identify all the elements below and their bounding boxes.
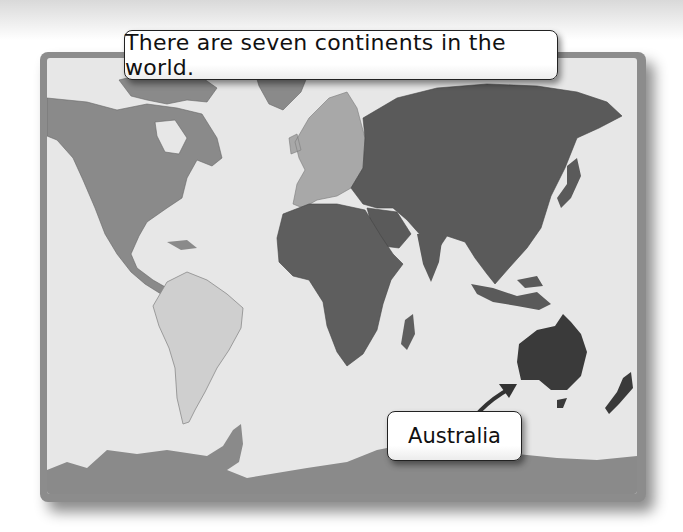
india xyxy=(417,234,443,282)
madagascar xyxy=(401,314,415,350)
caption-text: There are seven continents in the world. xyxy=(125,30,557,80)
australia-label-callout: Australia xyxy=(387,411,522,461)
indonesia xyxy=(471,276,551,310)
world-map-svg xyxy=(47,58,637,494)
south-america xyxy=(153,272,243,424)
new-zealand xyxy=(605,372,633,414)
world-map xyxy=(47,58,637,494)
caribbean xyxy=(167,240,197,250)
australia xyxy=(517,314,587,390)
arrow-head-icon xyxy=(499,384,517,398)
antarctica xyxy=(47,424,637,494)
tasmania xyxy=(557,398,567,408)
australia-label-text: Australia xyxy=(408,424,501,448)
map-frame xyxy=(40,52,646,502)
caption-callout: There are seven continents in the world. xyxy=(124,30,558,80)
north-america xyxy=(47,98,222,294)
